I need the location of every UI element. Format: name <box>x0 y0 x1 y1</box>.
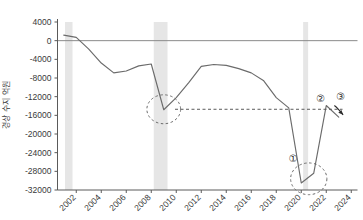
x-tick-label: 2016 <box>232 192 253 213</box>
y-tick-label: -20000 <box>25 129 52 139</box>
x-tick-label: 2010 <box>157 192 178 213</box>
current-account-balance-line-chart: 40000-4000-8000-12000-16000-20000-24000-… <box>0 0 363 220</box>
x-tick-label: 2002 <box>57 192 78 213</box>
y-tick-label: 4000 <box>33 17 52 27</box>
y-axis-title: 경상 수지 억원 <box>1 81 11 128</box>
y-tick-label: -4000 <box>30 54 52 64</box>
x-tick-label: 2020 <box>282 192 303 213</box>
x-tick-label: 2022 <box>307 192 328 213</box>
x-tick-label: 2012 <box>182 192 203 213</box>
recession-band-1 <box>154 22 168 190</box>
y-tick-label: -24000 <box>25 148 52 158</box>
marker-2: ② <box>316 93 325 104</box>
y-tick-label: -12000 <box>25 92 52 102</box>
marker-1: ① <box>289 153 298 164</box>
marker-3: ③ <box>336 91 345 102</box>
recession-band-0 <box>65 22 73 190</box>
chart-container: 40000-4000-8000-12000-16000-20000-24000-… <box>0 0 363 220</box>
y-tick-label: -8000 <box>30 73 52 83</box>
x-tick-label: 2024 <box>332 192 353 213</box>
x-tick-label: 2014 <box>207 192 228 213</box>
y-axis-ticks: 40000-4000-8000-12000-16000-20000-24000-… <box>25 17 57 195</box>
y-tick-label: -28000 <box>25 166 52 176</box>
y-tick-label: -16000 <box>25 110 52 120</box>
x-tick-label: 2004 <box>82 192 103 213</box>
x-tick-label: 2018 <box>257 192 278 213</box>
recession-band-group <box>65 22 308 190</box>
y-tick-label: -32000 <box>25 185 52 195</box>
annotation-dashed-shapes <box>147 95 343 195</box>
y-tick-label: 0 <box>47 36 52 46</box>
x-axis-ticks: 2002200420062008201020122014201620182020… <box>57 190 353 213</box>
trend-arrow-group <box>334 106 343 115</box>
x-tick-label: 2006 <box>107 192 128 213</box>
recession-band-2 <box>303 22 308 190</box>
x-tick-label: 2008 <box>132 192 153 213</box>
